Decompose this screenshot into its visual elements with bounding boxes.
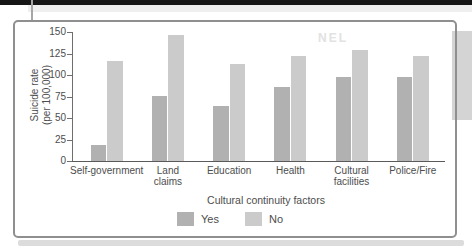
y-tick-mark — [67, 97, 72, 98]
bar-no-education — [230, 64, 246, 161]
y-tick-label: 50 — [40, 112, 66, 123]
y-tick-label: 150 — [40, 26, 66, 37]
y-tick-label: 125 — [40, 48, 66, 59]
bar-no-police-fire — [413, 56, 429, 161]
bar-yes-self-government — [91, 145, 107, 161]
bar-yes-land-claims — [152, 96, 168, 161]
frame-shadow — [18, 240, 464, 246]
legend-label-yes: Yes — [201, 213, 219, 225]
legend-item-no: No — [245, 212, 283, 226]
y-tick-mark — [67, 161, 72, 162]
legend-item-yes: Yes — [177, 212, 219, 226]
bar-no-self-government — [107, 61, 123, 161]
y-tick-label: 75 — [40, 91, 66, 102]
bar-no-land-claims — [168, 35, 184, 161]
category-label-police-fire: Police/Fire — [370, 165, 456, 176]
y-tick-mark — [67, 75, 72, 76]
bar-no-health — [291, 56, 307, 161]
chart-legend: YesNo — [15, 212, 445, 226]
y-tick-mark — [67, 140, 72, 141]
y-tick-label: 25 — [40, 134, 66, 145]
legend-swatch-no — [245, 212, 262, 226]
column-rule-line — [31, 0, 33, 21]
x-axis-title: Cultural continuity factors — [166, 194, 366, 206]
legend-swatch-yes — [177, 212, 194, 226]
y-tick-mark — [67, 32, 72, 33]
bar-yes-cultural-facilities — [336, 77, 352, 161]
scan-noise-band — [28, 5, 472, 12]
y-tick-mark — [67, 118, 72, 119]
bar-yes-health — [274, 87, 290, 161]
scanned-page: NEL Suicide rate (per 100,000) 025507510… — [0, 0, 472, 250]
bar-no-cultural-facilities — [352, 50, 368, 161]
legend-label-no: No — [269, 213, 283, 225]
y-tick-mark — [67, 54, 72, 55]
bar-yes-police-fire — [397, 77, 413, 161]
figure-frame: NEL Suicide rate (per 100,000) 025507510… — [13, 20, 457, 238]
bar-yes-education — [213, 106, 229, 161]
y-tick-label: 0 — [40, 155, 66, 166]
y-tick-label: 100 — [40, 69, 66, 80]
